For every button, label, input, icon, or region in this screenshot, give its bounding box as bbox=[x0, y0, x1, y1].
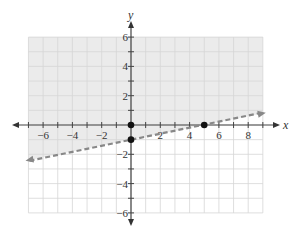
y-tick-label: −4 bbox=[116, 178, 128, 190]
x-tick-label: −6 bbox=[37, 129, 49, 141]
plotted-point bbox=[201, 122, 208, 129]
y-tick-label: 6 bbox=[123, 31, 129, 43]
y-axis-arrow-up-icon bbox=[128, 21, 134, 28]
x-tick-label: 4 bbox=[187, 129, 193, 141]
x-tick-label: 6 bbox=[216, 129, 222, 141]
x-tick-label: −4 bbox=[67, 129, 79, 141]
x-tick-label: −2 bbox=[96, 129, 108, 141]
y-tick-label: −6 bbox=[116, 207, 128, 219]
x-axis-arrow-right-icon bbox=[273, 122, 280, 128]
coordinate-plane: −6−4−22468642−2−4−6 x y bbox=[0, 0, 297, 237]
x-axis-arrow-left-icon bbox=[12, 122, 19, 128]
y-tick-label: 2 bbox=[123, 90, 129, 102]
x-axis-label: x bbox=[282, 118, 289, 132]
y-tick-label: −2 bbox=[116, 148, 128, 160]
y-axis-arrow-down-icon bbox=[128, 219, 134, 226]
x-tick-label: 8 bbox=[245, 129, 251, 141]
y-tick-label: 4 bbox=[123, 60, 129, 72]
y-axis-label: y bbox=[127, 8, 134, 22]
line-arrow-right-icon bbox=[257, 111, 266, 118]
plotted-point bbox=[128, 122, 135, 129]
plotted-point bbox=[128, 136, 135, 143]
